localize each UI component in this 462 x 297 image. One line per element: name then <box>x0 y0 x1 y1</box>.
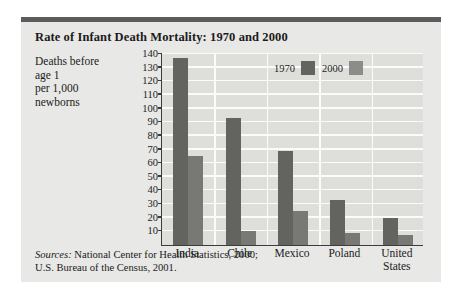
plot-area: 102030405060708090100110120130140 IndiaC… <box>132 53 423 246</box>
y-axis-tickmark <box>158 66 162 68</box>
bar-group-india <box>173 53 203 245</box>
x-axis-label-mexico: Mexico <box>266 247 318 260</box>
y-axis-tickmark <box>158 93 162 95</box>
bar-united-states-1970 <box>383 218 398 245</box>
y-axis-tick-label: 140 <box>142 48 158 59</box>
y-axis-tickmark <box>158 216 162 218</box>
y-axis-caption-line-1: Deaths before <box>35 55 135 69</box>
y-axis-tick-label: 70 <box>148 143 159 154</box>
bar-group-mexico <box>278 53 308 245</box>
y-axis-tick-labels: 102030405060708090100110120130140 <box>132 53 158 246</box>
y-axis-tickmark <box>158 134 162 136</box>
bar-chile-1970 <box>226 118 241 245</box>
y-axis-tick-label: 120 <box>142 75 158 86</box>
y-axis-tick-label: 20 <box>148 211 159 222</box>
legend-swatch-2000 <box>349 61 363 75</box>
legend-item-1970: 1970 <box>274 61 315 75</box>
y-axis-caption-line-4: newborns <box>35 96 135 110</box>
y-axis-tickmark <box>158 189 162 191</box>
sources-text-1: National Center for Health Statistics, 2… <box>72 249 258 260</box>
bar-group-united-states <box>383 53 413 245</box>
y-axis-caption: Deaths before age 1 per 1,000 newborns <box>35 55 135 109</box>
gridline-vertical <box>319 53 321 245</box>
y-axis-tickmark <box>158 80 162 82</box>
y-axis-tick-label: 130 <box>142 61 158 72</box>
y-axis-tick-label: 110 <box>143 88 158 99</box>
bar-poland-1970 <box>330 200 345 245</box>
top-rule-divider <box>21 17 441 22</box>
bar-india-2000 <box>188 156 203 245</box>
x-axis-label-united-states: UnitedStates <box>371 247 423 273</box>
bar-group-chile <box>226 53 256 245</box>
legend-swatch-1970 <box>301 61 315 75</box>
y-axis-tick-label: 10 <box>148 225 159 236</box>
y-axis-tickmark <box>158 107 162 109</box>
y-axis-caption-line-2: age 1 <box>35 69 135 83</box>
y-axis-tick-label: 40 <box>148 184 159 195</box>
chart-legend: 1970 2000 <box>274 61 363 75</box>
y-axis-tick-label: 90 <box>148 116 159 127</box>
chart-title: Rate of Infant Death Mortality: 1970 and… <box>35 30 288 45</box>
x-axis-label-poland: Poland <box>318 247 370 260</box>
gridline-vertical <box>214 53 216 245</box>
gridline-vertical <box>372 53 374 245</box>
y-axis-tick-label: 60 <box>148 157 159 168</box>
bar-group-poland <box>330 53 360 245</box>
sources-line-1: Sources: National Center for Health Stat… <box>35 249 258 262</box>
bar-mexico-1970 <box>278 151 293 245</box>
plot-canvas <box>161 53 423 246</box>
legend-label-1970: 1970 <box>274 63 295 74</box>
y-axis-tickmark <box>158 175 162 177</box>
gridline-vertical <box>267 53 269 245</box>
bar-poland-2000 <box>345 233 360 245</box>
y-axis-tickmark <box>158 162 162 164</box>
legend-label-2000: 2000 <box>322 63 343 74</box>
chart-figure: Rate of Infant Death Mortality: 1970 and… <box>21 17 441 282</box>
sources-note: Sources: National Center for Health Stat… <box>35 249 258 274</box>
bar-chile-2000 <box>241 231 256 245</box>
y-axis-tickmark <box>158 230 162 232</box>
y-axis-caption-line-3: per 1,000 <box>35 82 135 96</box>
y-axis-tick-label: 50 <box>148 170 159 181</box>
y-axis-tickmark <box>158 121 162 123</box>
bar-mexico-2000 <box>293 211 308 245</box>
sources-line-2: U.S. Bureau of the Census, 2001. <box>35 262 258 275</box>
y-axis-tickmark <box>158 148 162 150</box>
bar-india-1970 <box>173 58 188 245</box>
y-axis-tick-label: 100 <box>142 102 158 113</box>
legend-item-2000: 2000 <box>322 61 363 75</box>
y-axis-tickmark <box>158 203 162 205</box>
y-axis-tick-label: 80 <box>148 129 159 140</box>
bar-united-states-2000 <box>398 235 413 245</box>
y-axis-tickmark <box>158 53 162 55</box>
y-axis-tick-label: 30 <box>148 198 159 209</box>
sources-label: Sources: <box>35 249 72 260</box>
